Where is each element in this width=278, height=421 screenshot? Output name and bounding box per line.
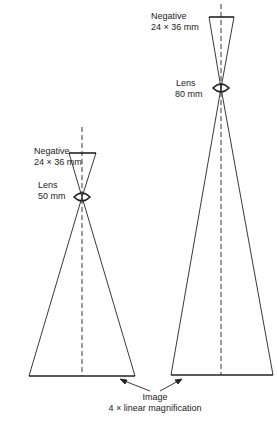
left-negative-size: 24 × 36 mm — [34, 157, 82, 168]
right-negative-size: 24 × 36 mm — [151, 22, 199, 33]
right-lens-focal: 80 mm — [175, 89, 203, 100]
left-lower-cone-right — [82, 197, 135, 376]
image-pointer-arrows — [120, 379, 182, 391]
enlarger-diagram: Negative 24 × 36 mm Lens 50 mm Negative … — [0, 0, 278, 421]
right-negative-label: Negative — [151, 11, 187, 22]
left-negative-label: Negative — [34, 146, 70, 157]
right-enlarger — [171, 4, 273, 375]
right-lower-cone-right — [221, 88, 273, 375]
right-lower-cone-left — [171, 88, 221, 375]
image-caption-subtitle: 4 × linear magnification — [80, 403, 230, 414]
left-lower-cone-left — [29, 197, 82, 376]
right-upper-cone — [209, 17, 234, 88]
left-lens-label: Lens — [38, 180, 58, 191]
diagram-drawing — [0, 0, 278, 421]
right-lens-label: Lens — [176, 78, 196, 89]
image-caption-title: Image — [105, 392, 205, 403]
left-lens-focal: 50 mm — [38, 191, 66, 202]
